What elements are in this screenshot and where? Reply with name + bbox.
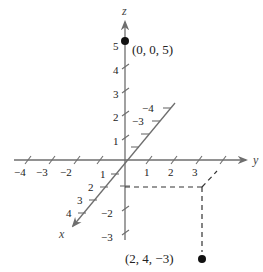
y-tick-label: 1 — [144, 166, 150, 178]
y-tick-label: 2 — [168, 166, 174, 178]
diagram-3d-coordinates: z y x −4 −3 −2 1 2 3 5 4 3 2 1 −2 −3 1 2… — [0, 0, 263, 272]
y-tick-label: −4 — [14, 166, 26, 178]
x-tick-label: −3 — [132, 115, 144, 127]
x-tick-label: 2 — [88, 181, 94, 193]
z-tick-label: 4 — [113, 64, 119, 76]
z-tick-label: 5 — [113, 40, 119, 52]
z-tick-label: −3 — [101, 231, 113, 243]
point-2-4-neg3 — [198, 255, 206, 263]
point-0-0-5 — [121, 37, 129, 45]
coordinate-system-svg: z y x −4 −3 −2 1 2 3 5 4 3 2 1 −2 −3 1 2… — [0, 0, 263, 272]
z-tick-label: 3 — [113, 88, 119, 100]
y-axis-label: y — [252, 153, 259, 167]
y-tick-label: 3 — [192, 166, 198, 178]
y-tick-label: −3 — [36, 166, 48, 178]
z-tick-label: 2 — [113, 111, 119, 123]
x-tick-label: 3 — [77, 194, 83, 206]
y-tick-label: −2 — [60, 166, 72, 178]
dashed-line-diagonal — [202, 171, 217, 187]
z-tick-label: 1 — [113, 135, 119, 147]
point-label-0-0-5: (0, 0, 5) — [132, 42, 173, 57]
x-tick-label: 1 — [100, 168, 106, 180]
x-tick-label: 4 — [66, 207, 72, 219]
z-tick-label: −2 — [101, 207, 113, 219]
point-label-2-4-neg3: (2, 4, −3) — [125, 251, 174, 266]
x-axis-label: x — [58, 227, 65, 241]
x-tick-label: −4 — [142, 102, 154, 114]
z-axis-label: z — [121, 4, 127, 18]
